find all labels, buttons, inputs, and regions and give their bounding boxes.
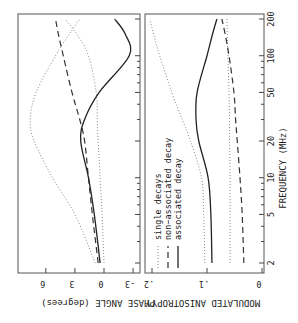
phase-series-line [81, 19, 131, 263]
phase-axis-title: PHASE ANGLE (degrees) [41, 298, 155, 308]
phase-curves [30, 19, 131, 263]
anisotropy-axis-ticks: .2.10 [144, 268, 262, 289]
frequency-tick-label: 100 [266, 48, 276, 63]
phase-tick-label: 3 [69, 279, 74, 289]
frequency-tick-label: 2 [266, 260, 276, 265]
legend-label-non-associated: non−associated decay [163, 138, 173, 240]
anisotropy-series-line [196, 19, 217, 263]
legend-label-single: single decays [153, 173, 163, 240]
phase-axis-ticks: 630-3 [40, 268, 135, 289]
legend-label-associated: associated decay [173, 158, 183, 240]
frequency-tick-label: 5 [266, 212, 276, 217]
anisotropy-axis-title-fragment: Y [145, 298, 151, 308]
anisotropy-tick-label: .1 [199, 279, 209, 289]
anisotropy-axis-title: MODULATED ANISOTROPY [151, 298, 260, 308]
anisotropy-tick-label: .2 [144, 279, 154, 289]
frequency-tick-label: 200 [266, 11, 276, 26]
frequency-axis-title: FREQUENCY (MHz) [278, 127, 288, 208]
phase-series-line [56, 19, 99, 263]
frequency-tick-label: 50 [266, 87, 276, 97]
phase-tick-label: -3 [125, 279, 135, 289]
phase-tick-label: 6 [40, 279, 45, 289]
anisotropy-series-line [227, 19, 230, 263]
phase-panel-frequency-ticks [135, 19, 140, 263]
phase-tick-label: 0 [98, 279, 103, 289]
phase-panel-frame [18, 14, 140, 273]
anisotropy-tick-label: 0 [256, 279, 261, 289]
anisotropy-series-line [222, 19, 244, 263]
anisotropy-panel-frequency-ticks: 25102050100200 [259, 11, 276, 265]
phase-anisotropy-figure: 25102050100200 630-3 .2.10 single decays… [0, 0, 298, 323]
frequency-tick-label: 20 [266, 136, 276, 146]
legend: single decays non−associated decay assoc… [153, 138, 183, 268]
frequency-tick-label: 10 [266, 173, 276, 183]
